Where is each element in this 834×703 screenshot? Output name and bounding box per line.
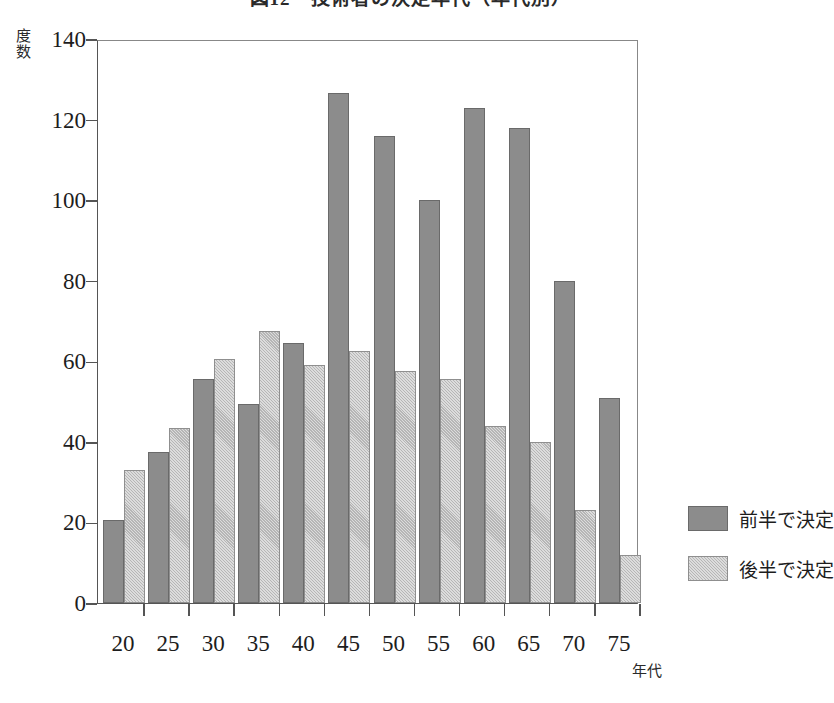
legend-item: 前半で決定 — [688, 504, 834, 532]
bar — [124, 470, 145, 603]
plot-area — [97, 40, 638, 604]
bars-layer — [98, 41, 637, 603]
bar — [419, 200, 440, 603]
y-tick-label: 140 — [8, 28, 86, 51]
bar — [238, 404, 259, 603]
bar — [464, 108, 485, 604]
legend-swatch — [688, 556, 728, 581]
y-tick-label: 0 — [8, 592, 86, 615]
y-tick-label: 60 — [8, 350, 86, 373]
y-tick-label: 100 — [8, 189, 86, 212]
y-tick — [86, 281, 97, 282]
bar — [214, 359, 235, 603]
bar — [620, 555, 641, 603]
x-tick — [594, 604, 595, 616]
chart-legend: 前半で決定後半で決定 — [688, 504, 834, 604]
y-tick — [86, 362, 97, 363]
y-tick — [86, 200, 97, 201]
bar — [349, 351, 370, 603]
x-axis-label: 年代 — [612, 659, 682, 680]
x-tick — [233, 604, 234, 616]
x-tick — [324, 604, 325, 616]
x-tick — [549, 604, 550, 616]
legend-label: 後半で決定 — [739, 555, 834, 582]
legend-item: 後半で決定 — [688, 554, 834, 582]
bar — [169, 428, 190, 603]
y-tick — [86, 523, 97, 524]
x-tick — [639, 604, 640, 616]
legend-label: 前半で決定 — [739, 505, 834, 532]
bar — [193, 379, 214, 603]
x-tick — [504, 604, 505, 616]
bar — [395, 371, 416, 603]
bar — [304, 365, 325, 603]
y-tick-label: 80 — [8, 270, 86, 293]
y-tick — [86, 603, 97, 604]
bar — [440, 379, 461, 603]
y-tick — [86, 442, 97, 443]
y-tick — [86, 120, 97, 121]
chart-title: 図12 技術者の決定年代（年代別） — [190, 0, 630, 10]
bar — [283, 343, 304, 603]
bar — [599, 398, 620, 603]
bar — [103, 520, 124, 603]
legend-swatch — [688, 506, 728, 531]
bar — [575, 510, 596, 603]
bar — [259, 331, 280, 603]
y-tick — [86, 39, 97, 40]
x-tick-label: 75 — [591, 631, 647, 656]
bar — [148, 452, 169, 603]
y-tick-label: 40 — [8, 431, 86, 454]
bar — [328, 93, 349, 603]
x-tick — [414, 604, 415, 616]
bar — [374, 136, 395, 603]
y-tick-label: 20 — [8, 511, 86, 534]
x-tick — [279, 604, 280, 616]
bar — [530, 442, 551, 603]
x-tick — [369, 604, 370, 616]
x-tick — [143, 604, 144, 616]
bar — [509, 128, 530, 603]
y-tick-label: 120 — [8, 109, 86, 132]
bar — [485, 426, 506, 603]
bar — [554, 281, 575, 603]
x-tick — [459, 604, 460, 616]
x-tick — [188, 604, 189, 616]
